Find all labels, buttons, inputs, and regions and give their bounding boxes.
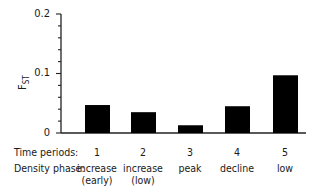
phase-5-line1: low	[257, 162, 312, 174]
y-tick-label-0: 0	[20, 127, 50, 139]
y-label-main: F	[16, 84, 29, 90]
bar-period-4	[225, 106, 250, 133]
bar-period-1	[85, 105, 110, 133]
bar-period-5	[273, 75, 298, 133]
y-axis-label: FST	[16, 75, 31, 90]
phase-5: low	[257, 162, 312, 174]
y-axis-ticks	[56, 14, 61, 133]
time-period-5: 5	[257, 146, 312, 158]
bars	[85, 75, 298, 133]
y-tick-label-0.2: 0.2	[20, 8, 50, 20]
bar-period-3	[178, 125, 203, 133]
fst-bar-chart: 0.2 0.1 0 FST Time periods: Density phas…	[0, 0, 312, 194]
phase-2-line2: (low)	[115, 174, 171, 186]
y-label-sub: ST	[22, 75, 31, 84]
bar-period-2	[131, 112, 156, 133]
